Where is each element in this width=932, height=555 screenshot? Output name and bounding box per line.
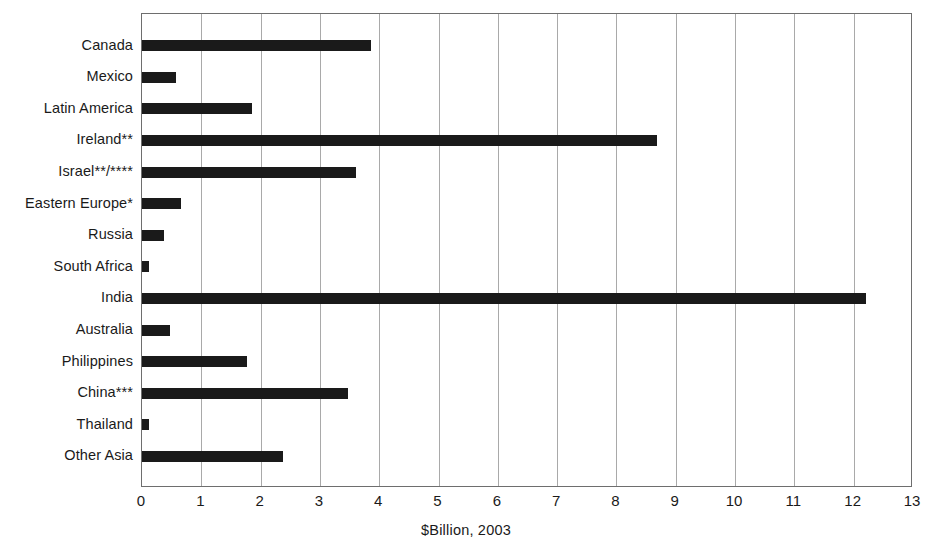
x-axis-tick-label: 3 <box>315 492 323 509</box>
bar <box>142 356 247 367</box>
x-axis-tick-label: 12 <box>844 492 861 509</box>
gridline-vertical <box>616 14 617 486</box>
y-axis-label: Ireland** <box>76 131 133 147</box>
x-axis-tick-label: 4 <box>374 492 382 509</box>
y-axis-label: Australia <box>76 321 133 337</box>
gridline-vertical <box>854 14 855 486</box>
y-axis-labels: CanadaMexicoLatin AmericaIreland**Israel… <box>0 13 133 487</box>
bar <box>142 325 170 336</box>
bar <box>142 40 371 51</box>
gridline-vertical <box>379 14 380 486</box>
bar <box>142 419 149 430</box>
x-axis-tick-label: 10 <box>726 492 743 509</box>
gridline-vertical <box>261 14 262 486</box>
x-axis-tick-label: 2 <box>255 492 263 509</box>
gridline-vertical <box>735 14 736 486</box>
x-axis-tick-labels: 012345678910111213 <box>141 492 912 516</box>
x-axis-tick-label: 5 <box>433 492 441 509</box>
y-axis-label: China*** <box>77 384 133 400</box>
gridline-vertical <box>320 14 321 486</box>
x-axis-title: $Billion, 2003 <box>0 522 932 538</box>
x-axis-tick-label: 7 <box>552 492 560 509</box>
y-axis-label: India <box>101 289 133 305</box>
y-axis-label: Thailand <box>77 416 133 432</box>
y-axis-label: South Africa <box>54 258 133 274</box>
gridline-vertical <box>676 14 677 486</box>
bar <box>142 135 657 146</box>
gridline-vertical <box>498 14 499 486</box>
bar <box>142 167 356 178</box>
y-axis-label: Mexico <box>86 68 133 84</box>
y-axis-label: Philippines <box>62 353 133 369</box>
bar <box>142 103 252 114</box>
x-axis-tick-label: 9 <box>671 492 679 509</box>
gridline-vertical <box>201 14 202 486</box>
bar-chart: CanadaMexicoLatin AmericaIreland**Israel… <box>0 0 932 555</box>
y-axis-label: Other Asia <box>64 447 133 463</box>
bar <box>142 451 283 462</box>
bar <box>142 293 866 304</box>
bar <box>142 230 164 241</box>
gridline-vertical <box>439 14 440 486</box>
plot-area <box>141 13 912 487</box>
x-axis-tick-label: 11 <box>786 492 802 509</box>
x-axis-tick-label: 1 <box>196 492 204 509</box>
bar <box>142 72 176 83</box>
gridline-vertical <box>794 14 795 486</box>
y-axis-label: Latin America <box>44 100 133 116</box>
gridline-vertical <box>557 14 558 486</box>
x-axis-tick-label: 0 <box>137 492 145 509</box>
y-axis-label: Russia <box>88 226 133 242</box>
x-axis-tick-label: 8 <box>611 492 619 509</box>
y-axis-label: Canada <box>82 37 133 53</box>
x-axis-tick-label: 13 <box>904 492 921 509</box>
y-axis-label: Israel**/**** <box>58 163 133 179</box>
bar <box>142 388 348 399</box>
y-axis-label: Eastern Europe* <box>25 195 133 211</box>
x-axis-tick-label: 6 <box>493 492 501 509</box>
bar <box>142 261 149 272</box>
bar <box>142 198 181 209</box>
